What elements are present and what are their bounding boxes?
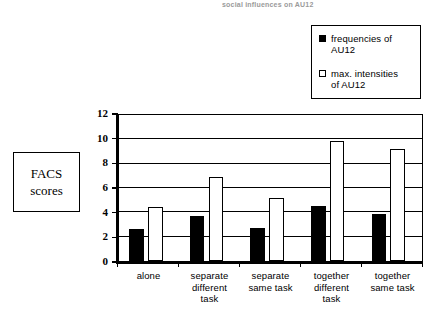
legend-item-frequencies: frequencies of AU12: [319, 33, 414, 55]
x-axis-tick: [300, 262, 302, 267]
bar-max-intensities: [148, 207, 163, 261]
legend-intensities-line1: max. intensities: [331, 68, 398, 79]
bar-frequencies: [250, 228, 265, 261]
y-tick-label-10: 10: [88, 133, 108, 144]
y-tick-10: [112, 138, 117, 140]
bar-groups: [119, 115, 422, 261]
chart-legend: frequencies of AU12 max. intensities of …: [311, 25, 421, 99]
y-tick-6: [112, 187, 117, 189]
bar-max-intensities: [330, 141, 345, 261]
bar-frequencies: [372, 214, 387, 261]
open-square-icon: [319, 70, 326, 77]
bar-frequencies: [311, 206, 326, 261]
legend-frequencies-line1: frequencies of: [331, 33, 392, 44]
y-axis-title-box: FACS scores: [13, 152, 80, 212]
legend-frequencies-line2: AU12: [331, 44, 355, 55]
top-caption: social influences on AU12: [222, 0, 432, 7]
x-axis-label-line: same task: [370, 282, 414, 293]
bar-max-intensities: [269, 198, 284, 261]
filled-square-icon: [319, 35, 326, 42]
bar-frequencies: [129, 229, 144, 261]
x-axis-line: [116, 262, 423, 264]
y-tick-12: [112, 113, 117, 115]
bar-group: [119, 115, 180, 261]
x-axis-label: alone: [118, 270, 179, 305]
x-axis-label-line: different: [192, 282, 227, 293]
legend-item-intensities-label: max. intensities of AU12: [331, 68, 398, 90]
x-axis-label-line: separate: [252, 270, 290, 281]
legend-intensities-line2: of AU12: [331, 79, 366, 90]
x-axis-category-labels: aloneseparatedifferenttaskseparatesame t…: [118, 270, 423, 305]
x-axis-label: togethersame task: [362, 270, 423, 305]
bar-frequencies: [190, 216, 205, 261]
x-axis-tick: [178, 262, 180, 267]
bar-max-intensities: [390, 149, 405, 261]
x-axis-label-line: task: [201, 293, 219, 304]
bar-group: [180, 115, 241, 261]
legend-item-intensities: max. intensities of AU12: [319, 68, 414, 90]
bar-group: [361, 115, 422, 261]
y-tick-8: [112, 163, 117, 165]
x-axis-tick: [422, 262, 424, 267]
x-axis-label-line: same task: [248, 282, 292, 293]
bar-group: [301, 115, 362, 261]
x-axis-label-line: separate: [191, 270, 229, 281]
x-tick: [240, 261, 241, 262]
legend-item-frequencies-label: frequencies of AU12: [331, 33, 392, 55]
bar-group: [240, 115, 301, 261]
x-axis-label: separatedifferenttask: [179, 270, 240, 305]
y-tick-4: [112, 212, 117, 214]
x-axis-label-line: alone: [137, 270, 161, 281]
x-axis-tick: [239, 262, 241, 267]
x-axis-label: togetherdifferenttask: [301, 270, 362, 305]
bar-chart: [118, 114, 423, 262]
x-axis-label-line: together: [314, 270, 350, 281]
y-tick-label-8: 8: [88, 157, 108, 168]
y-tick-label-6: 6: [88, 182, 108, 193]
bar-max-intensities: [209, 177, 224, 261]
y-tick-label-4: 4: [88, 207, 108, 218]
y-tick-label-2: 2: [88, 231, 108, 242]
x-axis-tick: [361, 262, 363, 267]
y-tick-label-12: 12: [88, 108, 108, 119]
y-tick-2: [112, 237, 117, 239]
y-axis-title-line1: FACS: [31, 165, 63, 182]
x-axis-label-line: task: [323, 293, 341, 304]
x-tick: [180, 261, 181, 262]
x-axis-label-line: different: [314, 282, 349, 293]
x-axis-tick: [117, 262, 119, 267]
y-axis-title-line2: scores: [30, 182, 63, 199]
x-axis-label-line: together: [375, 270, 411, 281]
y-axis-tick-labels: 024681012: [84, 0, 108, 329]
x-axis-label: separatesame task: [240, 270, 301, 305]
y-tick-label-0: 0: [88, 256, 108, 267]
plot-area: [118, 114, 423, 262]
